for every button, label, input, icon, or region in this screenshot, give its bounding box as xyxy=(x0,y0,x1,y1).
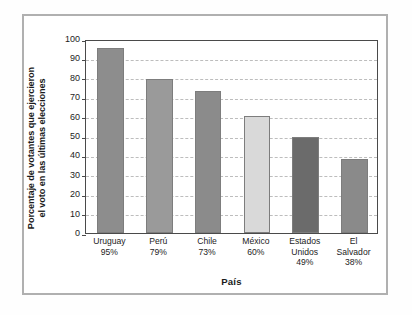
y-tick-label: 20 xyxy=(52,190,80,199)
x-tick-value-label: 95% xyxy=(85,247,134,258)
y-tick-label: 60 xyxy=(52,113,80,122)
x-tick-value-label: 49% xyxy=(280,257,329,268)
x-tick-label: EstadosUnidos49% xyxy=(280,236,329,268)
y-tick-label: 70 xyxy=(52,93,80,102)
x-tick-label-line: Chile xyxy=(183,236,232,247)
y-tick-label: 50 xyxy=(52,132,80,141)
plot-area xyxy=(85,40,378,234)
y-tick-label: 30 xyxy=(52,171,80,180)
x-tick-value-label: 79% xyxy=(134,247,183,258)
y-tick-label: 40 xyxy=(52,151,80,160)
x-tick-value-label: 60% xyxy=(232,247,281,258)
y-tick-label: 80 xyxy=(52,74,80,83)
x-tick-label-line: El xyxy=(329,236,378,247)
y-axis-title-line2: el voto en las últimas elecciones xyxy=(37,78,48,217)
x-tick-label-line: Salvador xyxy=(329,247,378,258)
x-tick-label: México60% xyxy=(232,236,281,257)
bar xyxy=(292,137,319,232)
x-tick-label: Chile73% xyxy=(183,236,232,257)
bar-series xyxy=(86,41,377,233)
bar xyxy=(244,116,271,232)
x-tick-label-line: Perú xyxy=(134,236,183,247)
bar xyxy=(146,79,173,232)
y-tick-label: 10 xyxy=(52,210,80,219)
y-tick-label: 100 xyxy=(52,35,80,44)
x-tick-label: Perú79% xyxy=(134,236,183,257)
bar xyxy=(195,91,222,233)
y-tick-label: 0 xyxy=(52,229,80,238)
x-tick-label: Uruguay95% xyxy=(85,236,134,257)
x-axis-title: País xyxy=(85,276,378,287)
x-tick-label: ElSalvador38% xyxy=(329,236,378,268)
x-tick-label-line: Unidos xyxy=(280,247,329,258)
y-axis-tick-labels: 1009080706050403020100 xyxy=(52,34,80,239)
x-tick-label-line: México xyxy=(232,236,281,247)
bar xyxy=(97,48,124,232)
x-tick-label-line: Estados xyxy=(280,236,329,247)
chart-figure: Porcentaje de votantes que ejercieron el… xyxy=(0,0,412,315)
bar xyxy=(341,159,368,233)
x-tick-value-label: 38% xyxy=(329,257,378,268)
y-tick-label: 90 xyxy=(52,54,80,63)
y-axis-title-line1: Porcentaje de votantes que ejercieron xyxy=(26,67,37,229)
x-tick-label-line: Uruguay xyxy=(85,236,134,247)
x-tick-value-label: 73% xyxy=(183,247,232,258)
y-axis-title: Porcentaje de votantes que ejercieron el… xyxy=(20,43,54,253)
x-axis-tick-labels: Uruguay95%Perú79%Chile73%México60%Estado… xyxy=(85,236,378,278)
